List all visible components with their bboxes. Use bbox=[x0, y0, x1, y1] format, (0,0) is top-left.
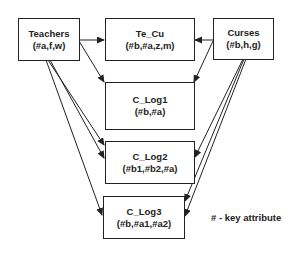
arrow-teachers-c-log3 bbox=[46, 60, 102, 215]
entity-teachers: Teachers (#a,f,w) bbox=[18, 18, 80, 61]
entity-name: C_Log3 bbox=[127, 206, 162, 218]
arrow-curses-c-log1 bbox=[194, 41, 213, 82]
arrow-teachers-c-log2-a bbox=[48, 60, 104, 145]
arrow-teachers-c-log1 bbox=[79, 41, 104, 82]
entity-name: Te_Cu bbox=[136, 28, 164, 40]
entity-c-log1: C_Log1 (#b,#a) bbox=[105, 82, 195, 130]
er-diagram: Teachers (#a,f,w) Te_Cu (#b,#a,z,m) Curs… bbox=[0, 0, 298, 253]
entity-name: C_Log1 bbox=[133, 94, 168, 106]
entity-attributes: (#b,#a,z,m) bbox=[125, 40, 174, 52]
entity-name: Curses bbox=[227, 27, 259, 39]
entity-te-cu: Te_Cu (#b,#a,z,m) bbox=[105, 18, 195, 61]
entity-attributes: (#a,f,w) bbox=[33, 40, 66, 52]
entity-attributes: (#b,#a1,#a2) bbox=[117, 218, 171, 230]
entity-c-log3: C_Log3 (#b,#a1,#a2) bbox=[103, 196, 185, 239]
entity-curses: Curses (#b,h,g) bbox=[213, 18, 274, 60]
legend-key-attribute: # - key attribute bbox=[211, 212, 281, 223]
entity-attributes: (#b,#a) bbox=[135, 106, 166, 118]
entity-name: Teachers bbox=[28, 28, 69, 40]
entity-attributes: (#b,h,g) bbox=[226, 39, 260, 51]
arrow-curses-c-log2 bbox=[195, 59, 243, 157]
arrow-teachers-c-log2-b bbox=[50, 60, 104, 158]
entity-name: C_Log2 bbox=[133, 151, 168, 163]
entity-attributes: (#b1,#b2,#a) bbox=[123, 163, 178, 175]
entity-c-log2: C_Log2 (#b1,#b2,#a) bbox=[105, 141, 195, 184]
